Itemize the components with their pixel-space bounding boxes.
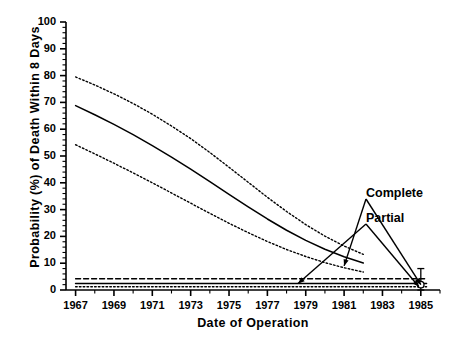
chart-plot-area: [0, 0, 474, 341]
annotation-complete: Complete: [366, 186, 423, 200]
x-tick-label: 1981: [324, 299, 364, 311]
y-axis-title: Probability (%) of Death Within 8 Days: [28, 7, 42, 287]
x-tick-label: 1983: [362, 299, 402, 311]
x-tick-label: 1971: [132, 299, 172, 311]
x-tick-label: 1973: [171, 299, 211, 311]
x-tick-label: 1979: [286, 299, 326, 311]
chart-figure: 0102030405060708090100 19671969197119731…: [0, 0, 474, 341]
x-tick-label: 1985: [401, 299, 441, 311]
annotation-partial: Partial: [366, 211, 404, 225]
x-tick-label: 1975: [209, 299, 249, 311]
x-tick-label: 1969: [94, 299, 134, 311]
x-tick-label: 1977: [247, 299, 287, 311]
x-tick-label: 1967: [56, 299, 96, 311]
x-axis-title: Date of Operation: [66, 316, 440, 330]
